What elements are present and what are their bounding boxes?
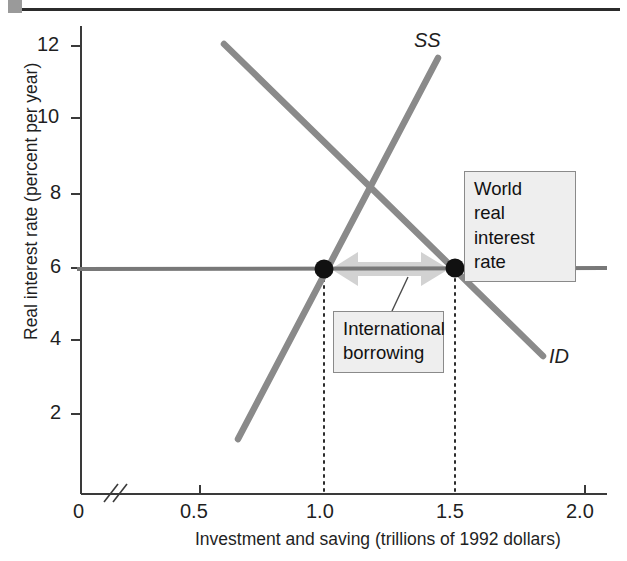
y-tick-label-2: 2 — [50, 401, 61, 424]
y-tick-label-8: 8 — [50, 181, 61, 204]
world-rate-callout-line-1: World — [474, 177, 567, 201]
world-real-interest-rate-callout: World real interest rate — [464, 171, 576, 282]
y-tick-label-6: 6 — [50, 255, 61, 278]
international-borrowing-callout-line-1: International — [343, 317, 435, 341]
international-borrowing-callout-line-2: borrowing — [343, 341, 435, 365]
x-tick-label-10: 1.0 — [306, 500, 334, 523]
x-tick-label-20: 2.0 — [566, 500, 594, 523]
y-tick-label-4: 4 — [50, 327, 61, 350]
x-tick-label-05: 0.5 — [180, 500, 208, 523]
x-tick-label-15: 1.5 — [436, 500, 464, 523]
ss-curve — [238, 58, 438, 439]
world-rate-callout-line-3: rate — [474, 250, 567, 274]
ss-curve-label: SS — [414, 29, 441, 52]
economics-figure: 12 10 8 6 4 2 0 0.5 1.0 1.5 2.0 Real int… — [0, 0, 627, 561]
world-rate-callout-line-2: real interest — [474, 201, 567, 250]
international-borrowing-leader-line — [392, 277, 408, 311]
international-borrowing-callout: International borrowing — [333, 311, 444, 373]
x-axis-title: Investment and saving (trillions of 1992… — [195, 529, 561, 550]
x-tick-label-0: 0 — [73, 500, 84, 523]
y-axis-title: Real interest rate (percent per year) — [21, 63, 42, 340]
y-tick-label-12: 12 — [37, 33, 59, 56]
saving-point-marker — [315, 260, 334, 279]
id-curve-label: ID — [549, 345, 569, 368]
investment-point-marker — [446, 259, 465, 278]
